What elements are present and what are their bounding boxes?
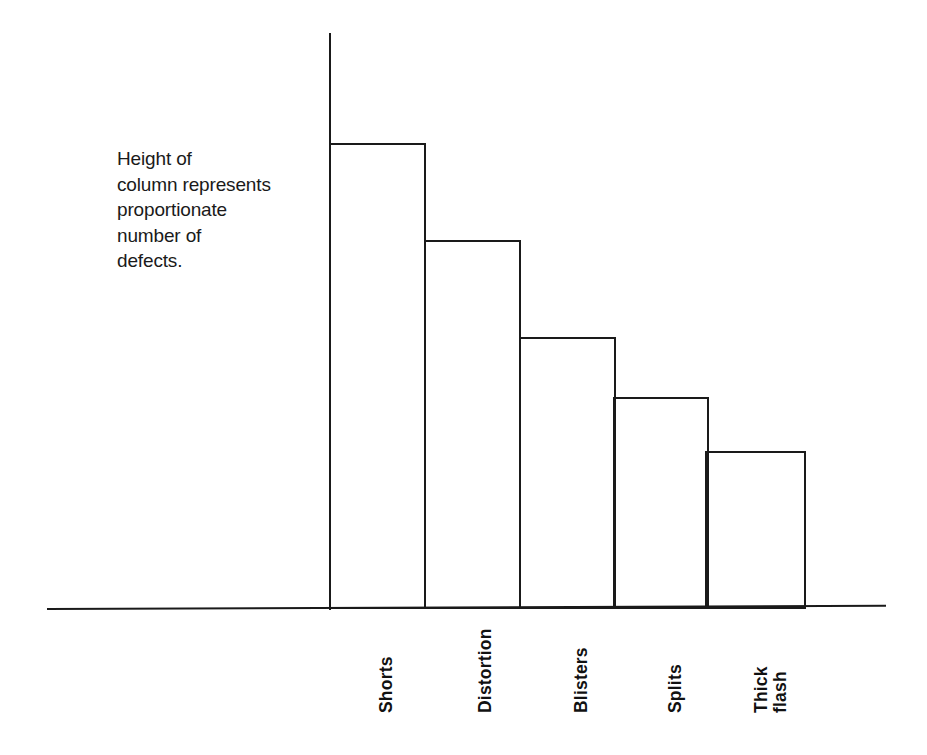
bar-column (519, 337, 616, 609)
chart-canvas: Height of column represents proportionat… (0, 0, 927, 755)
category-label: Thick flash (752, 666, 790, 713)
bar-series-layer: ShortsDistortionBlistersSplitsThick flas… (0, 0, 927, 755)
category-label: Splits (666, 664, 685, 713)
bar-column (705, 451, 806, 609)
category-label: Blisters (572, 647, 591, 713)
bar-column (613, 397, 709, 609)
bar-column (424, 240, 521, 609)
category-label: Distortion (476, 628, 495, 713)
bar-column (329, 143, 426, 609)
category-label: Shorts (377, 656, 396, 713)
